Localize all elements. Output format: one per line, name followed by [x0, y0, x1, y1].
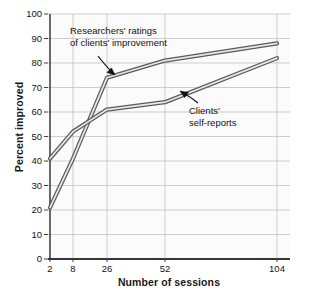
- chart-figure: Percent improved Number of sessions 0102…: [0, 0, 311, 300]
- researchers-annotation-line2: of clients' improvement: [70, 37, 167, 49]
- x-tick-104: 104: [257, 263, 297, 274]
- y-tick-20: 20: [16, 204, 42, 215]
- y-tick-40: 40: [16, 155, 42, 166]
- y-tick-50: 50: [16, 131, 42, 142]
- clients-annotation: Clients' self-reports: [189, 105, 237, 128]
- x-axis-title: Number of sessions: [48, 276, 290, 288]
- clients-annotation-line1: Clients': [189, 105, 237, 117]
- y-tick-100: 100: [16, 8, 42, 19]
- x-tick-26: 26: [87, 263, 127, 274]
- x-tick-52: 52: [145, 263, 185, 274]
- y-tick-90: 90: [16, 33, 42, 44]
- y-tick-10: 10: [16, 229, 42, 240]
- y-tick-80: 80: [16, 57, 42, 68]
- researchers-annotation-line1: Researchers' ratings: [70, 25, 167, 37]
- y-tick-30: 30: [16, 180, 42, 191]
- clients-annotation-line2: self-reports: [189, 117, 237, 129]
- researchers-annotation: Researchers' ratings of clients' improve…: [70, 25, 167, 48]
- y-tick-70: 70: [16, 82, 42, 93]
- y-tick-60: 60: [16, 106, 42, 117]
